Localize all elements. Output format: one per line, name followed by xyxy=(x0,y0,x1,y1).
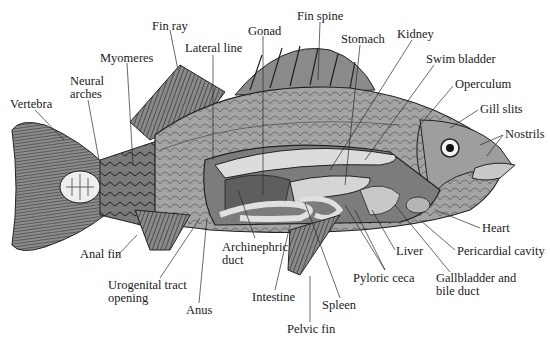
label-archinephric-duct: Archinephric duct xyxy=(222,241,288,267)
label-heart: Heart xyxy=(482,222,510,235)
label-nostrils: Nostrils xyxy=(505,128,545,141)
label-anus: Anus xyxy=(186,304,212,317)
label-operculum: Operculum xyxy=(455,78,511,91)
label-fin-ray: Fin ray xyxy=(152,20,188,33)
label-gallbladder-bile-duct: Gallbladder and bile duct xyxy=(436,272,516,298)
label-spleen: Spleen xyxy=(322,299,356,312)
label-pericardial-cavity: Pericardial cavity xyxy=(457,245,545,258)
label-swim-bladder: Swim bladder xyxy=(426,53,496,66)
label-pyloric-ceca: Pyloric ceca xyxy=(353,272,414,285)
label-neural-arches: Neural arches xyxy=(70,75,104,101)
label-gill-slits: Gill slits xyxy=(480,103,523,116)
label-stomach: Stomach xyxy=(341,33,385,46)
anal-fin xyxy=(135,210,190,250)
label-urogenital-tract-opening: Urogenital tract opening xyxy=(108,279,187,305)
label-gonad: Gonad xyxy=(248,25,281,38)
label-anal-fin: Anal fin xyxy=(80,248,121,261)
label-fin-spine: Fin spine xyxy=(297,10,343,23)
label-vertebra: Vertebra xyxy=(10,98,52,111)
label-kidney: Kidney xyxy=(397,28,434,41)
label-liver: Liver xyxy=(396,245,423,258)
label-lateral-line: Lateral line xyxy=(185,42,242,55)
label-intestine: Intestine xyxy=(252,291,295,304)
label-myomeres: Myomeres xyxy=(100,52,153,65)
label-pelvic-fin: Pelvic fin xyxy=(287,323,335,336)
heart-shape xyxy=(406,197,430,213)
